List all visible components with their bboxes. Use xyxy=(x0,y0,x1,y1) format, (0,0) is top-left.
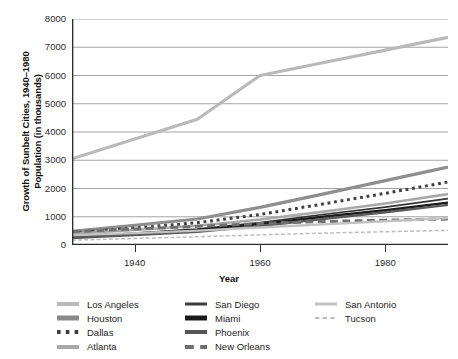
x-tick-mark xyxy=(385,245,386,252)
legend-item[interactable]: Phoenix xyxy=(184,325,270,339)
x-tick-label: 1980 xyxy=(360,257,410,268)
legend-label: San Antonio xyxy=(345,299,396,310)
chart-figure: Growth of Sunbelt Cities, 1940–1980 Popu… xyxy=(0,0,458,359)
legend-item[interactable]: Dallas xyxy=(56,325,139,339)
legend-label: Los Angeles xyxy=(87,299,139,310)
legend-swatch-icon xyxy=(184,340,208,354)
legend-swatch-icon xyxy=(56,297,80,311)
legend-swatch-icon xyxy=(314,297,338,311)
legend-item[interactable]: New Orleans xyxy=(184,340,270,354)
x-tick-label: 1940 xyxy=(110,257,160,268)
legend-item[interactable]: Houston xyxy=(56,311,139,325)
legend-swatch-icon xyxy=(56,311,80,325)
legend-label: Tucson xyxy=(345,313,376,324)
chart-legend: Los AngelesHoustonDallasAtlantaSan Diego… xyxy=(56,297,446,355)
legend-item[interactable]: San Diego xyxy=(184,297,270,311)
legend-label: Houston xyxy=(87,313,122,324)
legend-swatch-icon xyxy=(184,297,208,311)
legend-label: Atlanta xyxy=(87,341,117,352)
legend-swatch-icon xyxy=(314,311,338,325)
x-tick-mark xyxy=(260,245,261,252)
legend-item[interactable]: Los Angeles xyxy=(56,297,139,311)
legend-swatch-icon xyxy=(184,325,208,339)
legend-item[interactable]: San Antonio xyxy=(314,297,396,311)
legend-label: New Orleans xyxy=(215,341,270,352)
legend-column: San AntonioTucson xyxy=(314,297,396,325)
legend-column: San DiegoMiamiPhoenixNew Orleans xyxy=(184,297,270,354)
legend-label: Dallas xyxy=(87,327,113,338)
legend-item[interactable]: Tucson xyxy=(314,311,396,325)
x-tick-mark xyxy=(135,245,136,252)
legend-column: Los AngelesHoustonDallasAtlanta xyxy=(56,297,139,354)
legend-swatch-icon xyxy=(184,311,208,325)
legend-label: San Diego xyxy=(215,299,259,310)
legend-label: Miami xyxy=(215,313,240,324)
x-tick-label: 1960 xyxy=(235,257,285,268)
legend-swatch-icon xyxy=(56,340,80,354)
legend-item[interactable]: Miami xyxy=(184,311,270,325)
legend-swatch-icon xyxy=(56,325,80,339)
x-axis-title: Year xyxy=(0,273,458,284)
legend-label: Phoenix xyxy=(215,327,249,338)
legend-item[interactable]: Atlanta xyxy=(56,340,139,354)
